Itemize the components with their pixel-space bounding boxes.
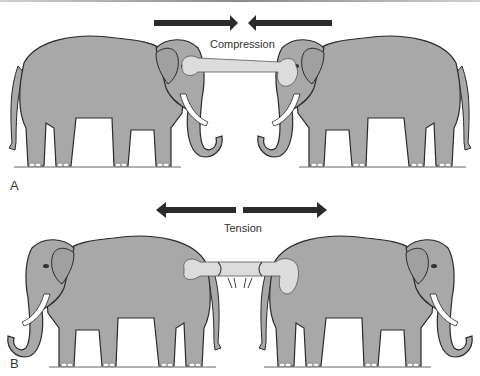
panel-letter-b: B <box>10 356 19 371</box>
panel-letter-a: A <box>10 178 19 193</box>
elephant-left-b <box>8 236 221 367</box>
compression-arrow-left <box>154 15 238 31</box>
elephant-right-a <box>258 36 471 167</box>
figure-canvas <box>0 0 480 376</box>
tension-arrow-left <box>156 202 236 218</box>
tension-label: Tension <box>224 222 262 234</box>
compression-arrow-right <box>248 15 332 31</box>
elephant-right-b <box>259 236 472 367</box>
tension-arrow-right <box>243 202 327 218</box>
compression-label: Compression <box>210 38 275 50</box>
